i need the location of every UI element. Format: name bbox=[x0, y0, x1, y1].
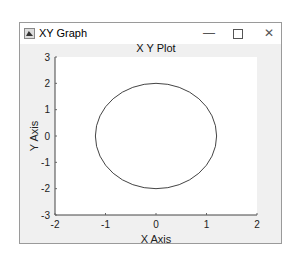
x-tick-label: 1 bbox=[204, 219, 210, 230]
xy-chart: -3-2-10123 -2-1012 X Y Plot X Axis Y Axi… bbox=[0, 0, 299, 261]
y-tick-label: 0 bbox=[44, 131, 50, 142]
y-tick-label: -1 bbox=[41, 157, 50, 168]
y-tick-label: 1 bbox=[44, 104, 50, 115]
x-tick-label: -1 bbox=[101, 219, 110, 230]
x-tick-label: 0 bbox=[153, 219, 159, 230]
y-tick-label: 3 bbox=[44, 52, 50, 63]
chart-title: X Y Plot bbox=[136, 42, 175, 54]
y-axis-label: Y Axis bbox=[28, 120, 40, 151]
x-tick-label: 2 bbox=[254, 219, 260, 230]
y-tick-label: -2 bbox=[41, 183, 50, 194]
plot-area bbox=[55, 57, 257, 215]
y-tick-label: -3 bbox=[41, 210, 50, 221]
x-axis-label: X Axis bbox=[141, 233, 172, 245]
x-tick-label: -2 bbox=[51, 219, 60, 230]
x-ticks: -2-1012 bbox=[51, 213, 261, 230]
y-tick-label: 2 bbox=[44, 78, 50, 89]
